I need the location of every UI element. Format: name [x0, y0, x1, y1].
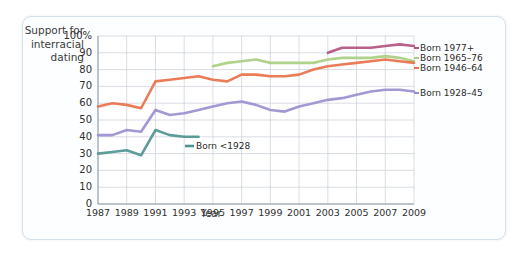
- series-label: Born 1977+: [420, 43, 474, 53]
- series-label-inline: Born <1928: [196, 141, 250, 151]
- y-axis-tick: 40: [52, 132, 92, 142]
- y-axis-tick: 100%: [52, 31, 92, 41]
- y-axis-tick: 20: [52, 165, 92, 175]
- x-axis-tick: 2009: [394, 207, 434, 218]
- series-label: Born 1928–45: [420, 88, 483, 98]
- y-axis-tick: 70: [52, 81, 92, 91]
- y-axis-tick: 50: [52, 115, 92, 125]
- y-axis-tick: 60: [52, 98, 92, 108]
- series-label: Born 1965–76: [420, 53, 483, 63]
- y-axis-tick: 10: [52, 182, 92, 192]
- y-axis-tick: 80: [52, 65, 92, 75]
- plot-area: 100%908070605040302010019871989199119931…: [0, 0, 528, 255]
- series-label: Born 1946–64: [420, 63, 483, 73]
- y-axis-tick: 90: [52, 48, 92, 58]
- y-axis-tick: 30: [52, 149, 92, 159]
